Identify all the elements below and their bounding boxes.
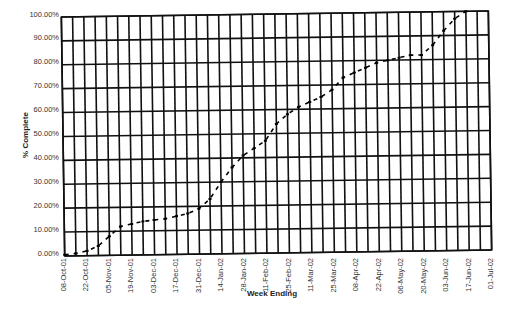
data-point-marker — [197, 208, 200, 210]
data-point-marker — [342, 77, 345, 79]
y-tick-label: 30.00% — [34, 177, 60, 186]
data-point-marker — [130, 223, 133, 225]
data-point-marker — [141, 220, 144, 222]
y-axis-title: % Complete — [21, 112, 30, 158]
data-point-marker — [208, 198, 211, 200]
x-tick-label: 05-Nov-01 — [104, 258, 113, 293]
x-tick-label: 08-Oct-01 — [59, 258, 68, 291]
data-point-marker — [297, 106, 300, 108]
x-tick-label: 08-Apr-02 — [351, 258, 360, 291]
data-point-marker — [186, 213, 189, 215]
x-tick-label: 22-Apr-02 — [374, 258, 383, 291]
x-tick-label: 25-Feb-02 — [284, 258, 293, 293]
data-point-marker — [364, 67, 367, 69]
x-tick-label: 20-May-02 — [419, 258, 428, 294]
y-tick-label: 60.00% — [34, 105, 60, 114]
x-tick-label: 14-Jan-02 — [216, 258, 225, 292]
data-point-marker — [108, 235, 111, 237]
data-point-marker — [409, 54, 412, 56]
data-point-marker — [153, 219, 156, 221]
x-tick-label: 19-Nov-01 — [126, 258, 135, 293]
data-point-marker — [74, 252, 77, 254]
data-point-marker — [97, 245, 100, 247]
y-axis: 0.00%10.00%20.00%30.00%40.00%50.00%60.00… — [29, 10, 59, 258]
data-point-marker — [431, 44, 434, 46]
y-tick-label: 50.00% — [34, 129, 60, 138]
plot-area — [60, 10, 492, 256]
y-tick-label: 10.00% — [34, 225, 60, 234]
data-point-marker — [63, 254, 66, 256]
data-point-marker — [242, 154, 245, 156]
line-chart: 0.00%10.00%20.00%30.00%40.00%50.00%60.00… — [0, 0, 511, 311]
x-tick-label: 28-Jan-02 — [239, 258, 248, 292]
data-point-marker — [464, 10, 467, 12]
x-tick-label: 17-Dec-01 — [171, 258, 180, 293]
data-point-marker — [398, 57, 401, 59]
x-tick-label: 06-May-02 — [396, 258, 405, 294]
x-tick-label: 03-Dec-01 — [149, 258, 158, 293]
y-tick-label: 100.00% — [29, 10, 59, 19]
y-tick-label: 80.00% — [34, 57, 60, 66]
data-point-marker — [442, 30, 445, 32]
data-point-marker — [164, 218, 167, 220]
data-point-marker — [264, 140, 267, 142]
data-point-marker — [331, 89, 334, 91]
data-point-marker — [420, 54, 423, 56]
x-tick-label: 17-Jun-02 — [464, 258, 473, 292]
x-axis-title: Week Ending — [247, 289, 297, 298]
data-point-marker — [375, 62, 378, 64]
data-point-marker — [353, 72, 356, 74]
data-point-marker — [319, 96, 322, 98]
y-tick-label: 0.00% — [38, 249, 60, 258]
data-point-marker — [253, 147, 256, 149]
x-tick-label: 31-Dec-01 — [194, 258, 203, 293]
data-point-marker — [286, 113, 289, 115]
data-point-marker — [175, 215, 178, 217]
x-tick-label: 11-Feb-02 — [261, 258, 270, 292]
data-point-marker — [119, 225, 122, 227]
y-tick-label: 70.00% — [34, 81, 60, 90]
data-point-marker — [453, 18, 456, 20]
x-tick-label: 25-Mar-02 — [329, 258, 338, 293]
data-point-marker — [86, 250, 89, 252]
data-point-marker — [308, 101, 311, 103]
x-tick-label: 03-Jun-02 — [441, 258, 450, 292]
x-tick-label: 11-Mar-02 — [306, 258, 315, 292]
data-point-marker — [231, 167, 234, 169]
y-tick-label: 20.00% — [34, 201, 60, 210]
x-tick-label: 01-Jul-02 — [486, 258, 495, 289]
data-point-marker — [219, 181, 222, 183]
y-tick-label: 40.00% — [34, 153, 60, 162]
data-point-marker — [275, 123, 278, 125]
data-point-marker — [386, 59, 389, 61]
y-tick-label: 90.00% — [34, 33, 60, 42]
x-tick-label: 22-Oct-01 — [81, 258, 90, 291]
